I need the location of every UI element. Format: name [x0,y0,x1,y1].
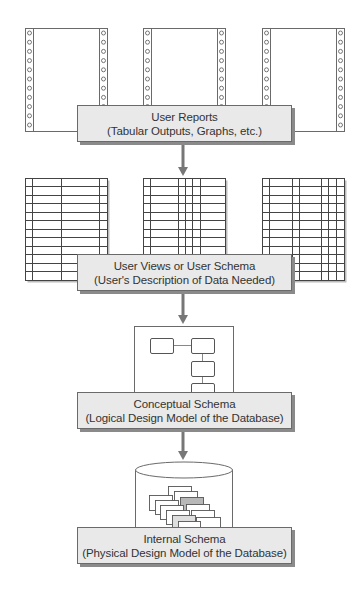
user-reports-box: User Reports (Tabular Outputs, Graphs, e… [77,105,292,142]
down-arrow-icon [178,429,188,460]
entity-box [192,362,215,377]
conceptual-schema-box: Conceptual Schema (Logical Design Model … [77,392,292,429]
user-views-box: User Views or User Schema (User's Descri… [77,254,292,291]
schema-levels-diagram: User Reports (Tabular Outputs, Graphs, e… [0,0,363,596]
conceptual-schema-subtitle: (Logical Design Model of the Database) [85,411,283,425]
entity-diagram-icon [135,327,234,399]
user-views-subtitle: (User's Description of Data Needed) [94,273,275,287]
entity-box [192,339,215,354]
user-reports-title: User Reports [151,110,218,124]
entity-box [151,339,174,354]
internal-schema-box: Internal Schema (Physical Design Model o… [77,527,292,564]
database-cylinder-icon [136,462,233,530]
conceptual-schema-title: Conceptual Schema [134,397,236,411]
user-views-title: User Views or User Schema [114,259,256,273]
internal-schema-title: Internal Schema [143,532,225,546]
user-reports-subtitle: (Tabular Outputs, Graphs, etc.) [107,124,262,138]
down-arrow-icon [178,291,188,324]
internal-schema-subtitle: (Physical Design Model of the Database) [82,546,286,560]
down-arrow-icon [178,142,188,176]
diagram-artwork [0,0,363,596]
